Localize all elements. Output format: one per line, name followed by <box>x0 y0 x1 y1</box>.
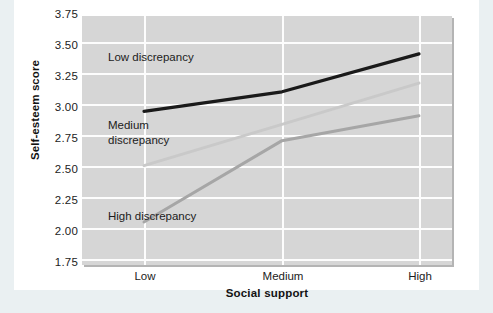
y-tick-label: 3.50 <box>55 39 78 51</box>
series-label-medium-discrepancy: Medium discrepancy <box>108 118 169 148</box>
y-tick-label: 2.00 <box>55 225 78 237</box>
y-axis-tick-labels: 1.75 2.00 2.25 2.50 2.75 3.00 3.25 3.50 … <box>34 16 78 265</box>
x-tick-label: Medium <box>263 270 304 282</box>
series-label-high-discrepancy: High discrepancy <box>108 209 196 224</box>
plot-area: Low discrepancy Medium discrepancy High … <box>82 16 452 265</box>
chart-figure: Self-esteem score 1.75 2.00 2.25 2.50 2.… <box>0 0 493 313</box>
y-tick-label: 3.75 <box>55 8 78 20</box>
x-axis-title: Social support <box>82 287 452 299</box>
series-line-high-discrepancy <box>144 116 419 222</box>
y-tick-label: 3.00 <box>55 101 78 113</box>
plot-inner: Low discrepancy Medium discrepancy High … <box>82 16 452 265</box>
y-tick-label: 2.50 <box>55 163 78 175</box>
y-tick-label: 1.75 <box>55 256 78 268</box>
x-tick-label: Low <box>134 270 155 282</box>
chart-card: Self-esteem score 1.75 2.00 2.25 2.50 2.… <box>14 0 479 290</box>
series-label-low-discrepancy: Low discrepancy <box>108 50 194 65</box>
y-tick-label: 2.25 <box>55 194 78 206</box>
y-tick-label: 2.75 <box>55 132 78 144</box>
x-tick-label: High <box>408 270 432 282</box>
x-axis-tick-labels: Low Medium High <box>82 270 452 286</box>
y-tick-label: 3.25 <box>55 70 78 82</box>
